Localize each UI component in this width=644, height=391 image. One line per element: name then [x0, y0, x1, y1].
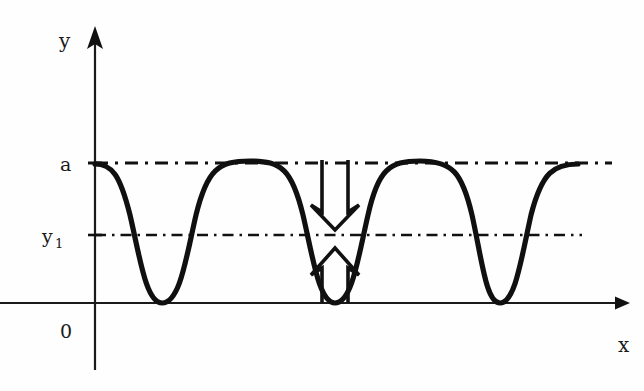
x-axis-label: x	[618, 333, 630, 357]
curve-group	[95, 161, 578, 303]
oscillation-diagram: y x a y 1 0	[0, 0, 644, 391]
down-arrow	[311, 160, 359, 230]
origin-label: 0	[60, 320, 72, 342]
figure-container: y x a y 1 0	[0, 0, 644, 391]
labels-group: y x a y 1 0	[41, 29, 630, 357]
oscillation-curve	[95, 161, 578, 303]
x-axis-arrowhead	[615, 297, 630, 310]
tick-label-a: a	[60, 153, 71, 175]
y-axis-label: y	[58, 29, 71, 53]
tick-label-y1: y	[41, 225, 53, 247]
tick-label-y1-subscript: 1	[55, 236, 63, 251]
